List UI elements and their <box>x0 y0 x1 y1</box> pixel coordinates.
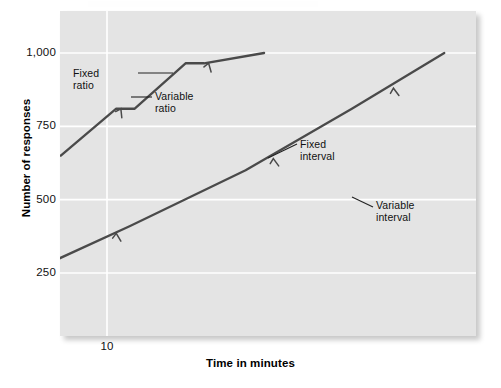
y-tick-label: 500 <box>36 193 56 205</box>
plot-svg <box>60 11 476 336</box>
gridlines <box>60 11 476 336</box>
annotation-fixed-ratio: Fixed ratio <box>73 68 99 91</box>
x-tick-label: 10 <box>100 340 113 352</box>
y-tick-label: 1,000 <box>26 46 56 58</box>
scan-artifact <box>88 1 318 7</box>
y-tick-label: 250 <box>36 266 56 278</box>
x-axis-title: Time in minutes <box>0 357 501 369</box>
reinforcer-mark <box>390 88 398 95</box>
annotation-variable-interval: Variable interval <box>376 200 415 223</box>
annotation-variable-ratio: Variable ratio <box>155 91 194 114</box>
reinforcer-mark <box>270 159 278 166</box>
figure-container: Fixed ratio Variable ratio Fixed interva… <box>0 0 501 388</box>
annotation-fixed-interval: Fixed interval <box>300 139 335 162</box>
reinforcer-mark <box>116 109 122 118</box>
leader-line <box>352 197 373 207</box>
plot-area: Fixed ratio Variable ratio Fixed interva… <box>60 11 476 336</box>
reinforcer-mark <box>204 63 211 72</box>
leader-line <box>268 144 297 158</box>
y-axis-title: Number of responses <box>20 88 32 228</box>
curve-variable-ratio <box>60 53 444 321</box>
y-tick-label: 750 <box>36 119 56 131</box>
data-curves <box>60 53 476 329</box>
